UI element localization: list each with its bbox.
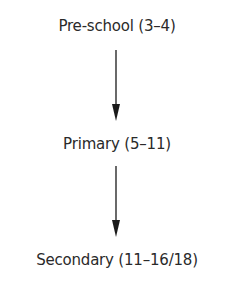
node-secondary: Secondary (11–16/18) (0, 250, 234, 270)
arrow-primary-to-secondary (0, 0, 234, 288)
